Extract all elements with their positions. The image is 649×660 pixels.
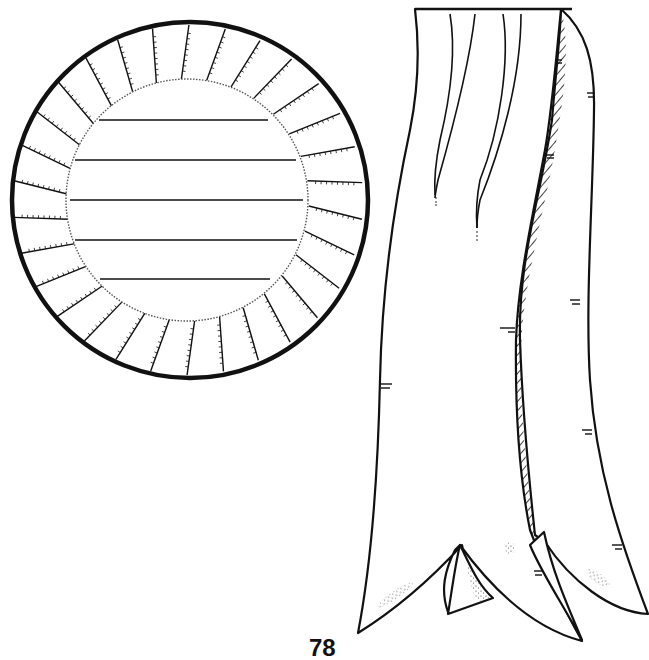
page-number: 78 bbox=[309, 636, 336, 660]
pleat-serration bbox=[314, 154, 315, 157]
pleat-serration bbox=[320, 153, 321, 156]
pleat-serration bbox=[29, 249, 30, 252]
pleat-serration bbox=[61, 243, 62, 246]
pleat-serration bbox=[336, 150, 337, 153]
pleat-serration bbox=[347, 148, 348, 151]
pleat-serration bbox=[67, 242, 68, 245]
pleat-serration bbox=[50, 245, 51, 248]
pleat-serration bbox=[45, 246, 46, 249]
pleat-serration bbox=[341, 149, 342, 152]
pleat-serration bbox=[56, 244, 57, 247]
ribbon bbox=[358, 9, 648, 641]
pleat-serration bbox=[309, 155, 310, 158]
pleat-serration bbox=[34, 248, 35, 251]
pleat-serration bbox=[40, 247, 41, 250]
pleat-serration bbox=[325, 152, 326, 155]
rosette bbox=[12, 22, 368, 378]
pleat-serration bbox=[330, 151, 331, 154]
